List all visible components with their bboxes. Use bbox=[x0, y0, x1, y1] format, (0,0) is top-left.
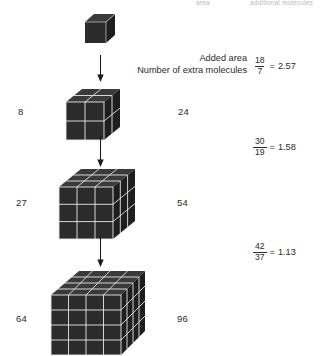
ratio-2-value: 1.58 bbox=[278, 142, 296, 152]
ratio-2-equals: = bbox=[270, 142, 275, 152]
ratio-3-fraction: 42 37 bbox=[253, 242, 267, 262]
ratio-1-fraction: 18 7 bbox=[253, 56, 267, 76]
ratio-caption-line-1: Added area bbox=[110, 53, 247, 65]
arrow-down-icon bbox=[95, 236, 106, 268]
ratio-2-numerator: 30 bbox=[253, 137, 267, 147]
surface-area-row-3: 54 bbox=[177, 197, 188, 208]
arrow-down-icon bbox=[95, 136, 106, 168]
arrow-1-to-2 bbox=[95, 55, 106, 83]
ratio-3-equals: = bbox=[270, 247, 275, 257]
cube-1x1x1 bbox=[84, 13, 118, 47]
cube-2x2x2-svg bbox=[65, 88, 125, 142]
ratio-1-value: 2.57 bbox=[278, 61, 296, 71]
ratio-2: 30 19 = 1.58 bbox=[253, 137, 296, 157]
cube-2x2x2 bbox=[65, 88, 125, 142]
ratio-caption: Added area Number of extra molecules bbox=[110, 53, 247, 76]
ratio-1-equals: = bbox=[270, 61, 275, 71]
molecules-count-row-3: 27 bbox=[16, 197, 27, 208]
cube-3x3x3-svg bbox=[58, 168, 138, 240]
cube-4x4x4-svg bbox=[50, 270, 148, 356]
ratio-2-fraction: 30 19 bbox=[253, 137, 267, 157]
ratio-3: 42 37 = 1.13 bbox=[253, 242, 296, 262]
cube-1x1x1-svg bbox=[84, 13, 118, 47]
ratio-2-denominator: 19 bbox=[253, 147, 267, 158]
molecules-count-row-2: 8 bbox=[18, 106, 23, 117]
header-fragment-additional-molecules: additional molecules bbox=[236, 0, 327, 6]
ratio-caption-line-2: Number of extra molecules bbox=[110, 65, 247, 77]
molecules-count-row-4: 64 bbox=[16, 313, 27, 324]
surface-area-row-4: 96 bbox=[177, 313, 188, 324]
arrow-down-icon bbox=[95, 55, 106, 83]
ratio-3-value: 1.13 bbox=[278, 247, 296, 257]
cube-4x4x4 bbox=[50, 270, 148, 356]
ratio-1: 18 7 = 2.57 bbox=[253, 56, 296, 76]
surface-area-row-2: 24 bbox=[178, 106, 189, 117]
ratio-1-denominator: 7 bbox=[255, 66, 264, 77]
ratio-1-numerator: 18 bbox=[253, 56, 267, 66]
arrow-2-to-3 bbox=[95, 136, 106, 168]
ratio-3-numerator: 42 bbox=[253, 242, 267, 252]
ratio-3-denominator: 37 bbox=[253, 252, 267, 263]
arrow-3-to-4 bbox=[95, 236, 106, 268]
header-fragment-area: area bbox=[186, 0, 220, 6]
cube-3x3x3 bbox=[58, 168, 138, 240]
